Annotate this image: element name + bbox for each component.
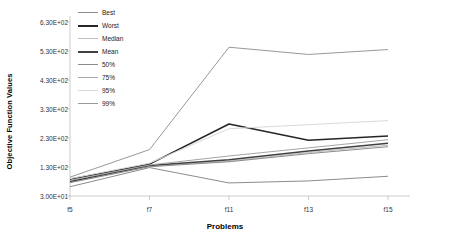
legend-swatch	[78, 25, 98, 27]
legend-label: 95%	[102, 87, 115, 94]
legend-swatch	[78, 38, 98, 39]
legend-label: Mean	[102, 48, 118, 55]
legend-swatch	[78, 77, 98, 78]
series-line-50pct	[70, 147, 388, 183]
legend-item: 50%	[78, 58, 158, 71]
legend-label: Best	[102, 9, 115, 16]
series-line-mean	[70, 143, 388, 181]
chart-legend: BestWorstMedianMean50%75%95%99%	[78, 6, 158, 110]
legend-swatch	[78, 64, 98, 65]
legend-item: 99%	[78, 97, 158, 110]
legend-label: Worst	[102, 22, 119, 29]
legend-swatch	[78, 103, 98, 104]
legend-item: Best	[78, 6, 158, 19]
x-axis-title: Problems	[0, 222, 450, 231]
legend-item: Median	[78, 32, 158, 45]
legend-item: 75%	[78, 71, 158, 84]
line-chart: Objective Function Values 6.30E+025.30E+…	[0, 0, 450, 243]
legend-label: 50%	[102, 61, 115, 68]
legend-label: 99%	[102, 100, 115, 107]
legend-swatch	[78, 90, 98, 91]
legend-label: 75%	[102, 74, 115, 81]
legend-item: Mean	[78, 45, 158, 58]
legend-swatch	[78, 51, 98, 53]
plot-area	[0, 0, 450, 243]
legend-label: Median	[102, 35, 123, 42]
legend-item: Worst	[78, 19, 158, 32]
legend-swatch	[78, 12, 98, 13]
legend-item: 95%	[78, 84, 158, 97]
